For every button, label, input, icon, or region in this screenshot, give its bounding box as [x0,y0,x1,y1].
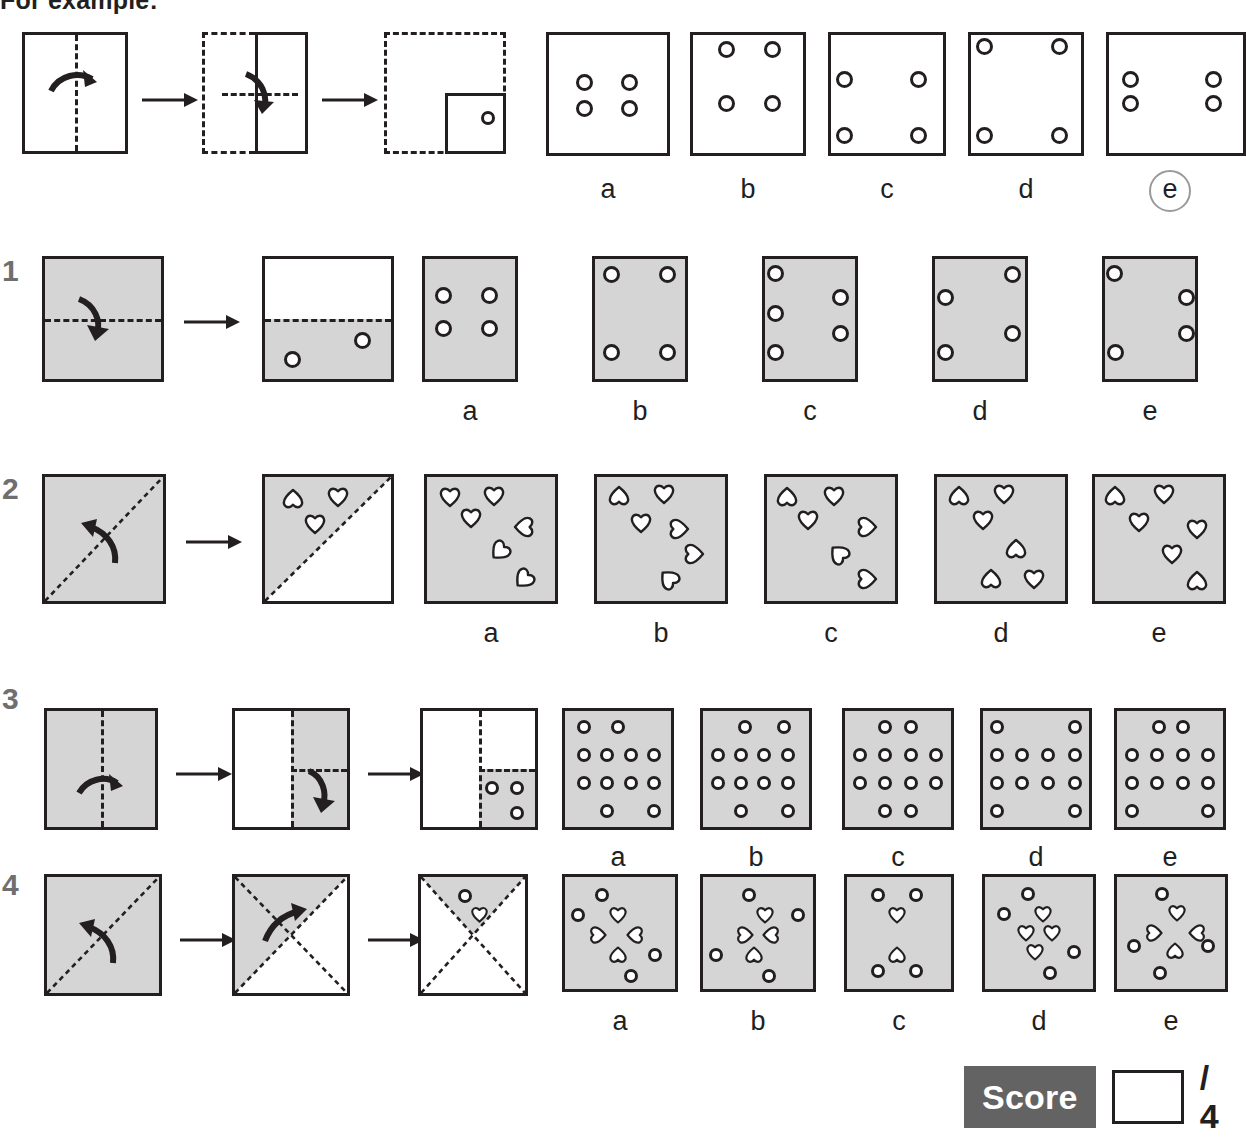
punched-hole [458,889,472,903]
q2-step2-panel [262,474,394,604]
fold-line-horizontal [222,93,298,96]
q4-step1-panel [44,874,162,996]
example-row: a b c d e [0,24,1232,194]
q4-option-a[interactable] [562,874,678,992]
sequence-arrow [368,762,424,786]
q3-step3-panel [420,708,538,830]
q4-option-c[interactable] [844,874,954,992]
option-letter-c: c [857,174,917,205]
q1-step2-panel [262,256,394,382]
q4-option-e[interactable] [1114,874,1228,992]
fold-line-horizontal [265,319,391,322]
option-letter-c: c [780,396,840,427]
q3-option-e[interactable] [1114,708,1226,830]
question-number-4: 4 [2,868,19,902]
option-letter-a: a [440,396,500,427]
q1-option-d[interactable] [932,256,1028,382]
sequence-arrow [142,88,198,112]
option-letter-a: a [578,174,638,205]
question-row-4: 4 [0,862,1232,1022]
punched-hole [354,332,371,349]
punched-hole [481,111,495,125]
q2-step1-panel [42,474,166,604]
q3-option-a[interactable] [562,708,674,830]
q1-option-b[interactable] [592,256,688,382]
sequence-arrow [180,928,236,952]
punched-heart [281,487,305,511]
option-letter-b: b [610,396,670,427]
q2-option-e[interactable] [1092,474,1226,604]
score-area: Score / 4 [964,1066,1232,1128]
fold-line-vertical [101,711,104,827]
question-number-3: 3 [2,682,19,716]
sequence-arrow [322,88,378,112]
fold-line-horizontal [291,769,347,772]
fold-arrow-right [73,763,135,825]
punched-heart [303,512,327,536]
example-option-b[interactable] [690,32,806,156]
q1-step1-panel [42,256,164,382]
example-step2-panel [202,32,308,154]
fold-line-vertical [75,35,78,151]
fold-arrow-down [67,291,129,353]
option-letter-a: a [590,1006,650,1037]
example-option-d[interactable] [968,32,1084,156]
option-letter-d: d [950,396,1010,427]
option-letter-d: d [971,618,1031,649]
sequence-arrow [186,530,242,554]
page-title: For example: [0,0,158,15]
question-number-2: 2 [2,472,19,506]
q2-option-b[interactable] [594,474,728,604]
fold-line-diagonal [47,877,159,993]
example-option-c[interactable] [828,32,946,156]
q2-option-a[interactable] [424,474,558,604]
punched-hole [510,781,524,795]
option-letter-e: e [1129,618,1189,649]
fold-arrow-upleft [71,911,133,973]
punched-hole [485,781,499,795]
sequence-arrow [368,928,424,952]
q4-step2-panel [232,874,350,996]
question-row-3: 3 [0,676,1232,836]
option-letter-d: d [1009,1006,1069,1037]
q3-step2-panel [232,708,350,830]
option-letter-b: b [728,1006,788,1037]
example-option-a[interactable] [546,32,670,156]
q3-option-c[interactable] [842,708,954,830]
q3-option-d[interactable] [980,708,1092,830]
q1-option-a[interactable] [422,256,518,382]
example-step3-panel [384,32,506,154]
option-letter-e-selected[interactable]: e [1140,170,1200,212]
example-step1-panel [22,32,128,154]
fold-line-diagonal [45,477,163,601]
option-letter-e: e [1141,1006,1201,1037]
q2-option-d[interactable] [934,474,1068,604]
score-input[interactable] [1112,1070,1184,1124]
question-row-1: 1 a b c [0,248,1232,428]
q4-option-d[interactable] [982,874,1096,992]
score-label: Score [964,1066,1096,1128]
sequence-arrow [176,762,232,786]
fold-line-horizontal [479,769,535,772]
q1-option-e[interactable] [1102,256,1198,382]
option-letter-c: c [869,1006,929,1037]
sequence-arrow [184,310,240,334]
fold-arrow-right [43,57,105,119]
option-letter-c: c [801,618,861,649]
q3-step1-panel [44,708,158,830]
q4-option-b[interactable] [700,874,816,992]
option-letter-b: b [631,618,691,649]
q3-option-b[interactable] [700,708,812,830]
option-letter-a: a [461,618,521,649]
q1-option-c[interactable] [762,256,858,382]
punched-heart [326,485,350,509]
q4-step3-panel [418,874,528,996]
q2-option-c[interactable] [764,474,898,604]
option-letter-b: b [718,174,778,205]
option-letter-e: e [1120,396,1180,427]
question-row-2: 2 [0,466,1232,646]
example-option-e[interactable] [1106,32,1246,156]
score-total: / 4 [1200,1058,1232,1136]
punched-heart [470,905,489,924]
